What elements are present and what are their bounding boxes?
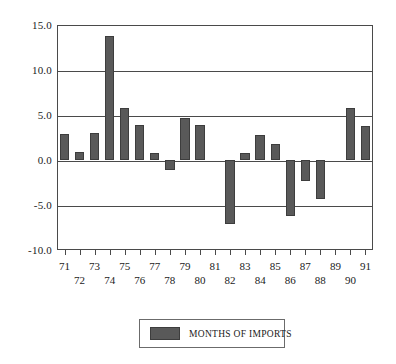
bar-72: [75, 152, 84, 160]
bar-80: [195, 125, 204, 160]
x-tick-label-91: 91: [353, 260, 377, 272]
bar-87: [301, 160, 310, 181]
bar-91: [361, 126, 370, 160]
x-tick-label-83: 83: [233, 260, 257, 272]
x-tick-label-81: 81: [203, 260, 227, 272]
bar-73: [90, 133, 99, 160]
x-tick-87: [305, 250, 306, 255]
x-tick-label-80: 80: [188, 274, 212, 286]
x-tick-82: [230, 250, 231, 255]
y-tick-label: 0.0: [6, 155, 52, 166]
x-tick-81: [215, 250, 216, 255]
bar-86: [286, 160, 295, 216]
x-tick-label-77: 77: [143, 260, 167, 272]
x-tick-76: [140, 250, 141, 255]
x-tick-78: [170, 250, 171, 255]
x-tick-77: [155, 250, 156, 255]
x-tick-label-82: 82: [218, 274, 242, 286]
legend-swatch-months-of-imports: [150, 327, 180, 340]
bar-85: [271, 144, 280, 160]
x-tick-label-89: 89: [323, 260, 347, 272]
x-tick-label-72: 72: [68, 274, 92, 286]
bar-90: [346, 108, 355, 160]
x-tick-74: [110, 250, 111, 255]
x-tick-label-79: 79: [173, 260, 197, 272]
y-tick-label: 10.0: [6, 65, 52, 76]
legend: MONTHS OF IMPORTS: [139, 319, 285, 348]
x-tick-88: [320, 250, 321, 255]
y-tick-label: 15.0: [6, 20, 52, 31]
x-axis-labels: 7172737475767778798081828384858687888990…: [57, 256, 373, 290]
bar-82: [225, 160, 234, 224]
x-tick-label-75: 75: [113, 260, 137, 272]
x-tick-label-84: 84: [248, 274, 272, 286]
bar-77: [150, 153, 159, 160]
y-tick-label: 5.0: [6, 110, 52, 121]
x-tick-80: [200, 250, 201, 255]
x-tick-71: [65, 250, 66, 255]
x-tick-label-88: 88: [308, 274, 332, 286]
x-tick-72: [80, 250, 81, 255]
legend-label-months-of-imports: MONTHS OF IMPORTS: [189, 329, 292, 339]
x-tick-label-76: 76: [128, 274, 152, 286]
x-tick-86: [290, 250, 291, 255]
bar-78: [165, 160, 174, 170]
bar-76: [135, 125, 144, 160]
bars-layer: [57, 25, 373, 250]
x-tick-91: [365, 250, 366, 255]
x-tick-73: [95, 250, 96, 255]
bar-88: [316, 160, 325, 199]
x-tick-label-73: 73: [83, 260, 107, 272]
x-tick-label-87: 87: [293, 260, 317, 272]
bar-83: [240, 153, 249, 160]
x-tick-label-85: 85: [263, 260, 287, 272]
x-tick-83: [245, 250, 246, 255]
x-tick-79: [185, 250, 186, 255]
x-tick-85: [275, 250, 276, 255]
bar-79: [180, 118, 189, 160]
bar-84: [255, 135, 264, 160]
x-tick-label-74: 74: [98, 274, 122, 286]
bar-74: [105, 36, 114, 160]
bar-75: [120, 108, 129, 160]
bar-71: [60, 134, 69, 160]
x-tick-89: [335, 250, 336, 255]
x-tick-label-71: 71: [53, 260, 77, 272]
x-tick-90: [350, 250, 351, 255]
x-tick-label-86: 86: [278, 274, 302, 286]
x-tick-label-78: 78: [158, 274, 182, 286]
y-tick-label: -10.0: [6, 245, 52, 256]
y-tick-label: -5.0: [6, 200, 52, 211]
x-tick-84: [260, 250, 261, 255]
x-tick-label-90: 90: [338, 274, 362, 286]
bar-chart: 15.010.05.00.0-5.0-10.0 7172737475767778…: [0, 0, 396, 364]
legend-entry: MONTHS OF IMPORTS: [140, 320, 284, 347]
x-tick-75: [125, 250, 126, 255]
